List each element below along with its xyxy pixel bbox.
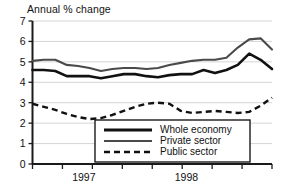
x-tick-label-year: 1998 xyxy=(175,171,199,183)
y-tick-label: 7 xyxy=(20,15,26,27)
y-tick-label: 0 xyxy=(20,158,26,170)
legend-label-private-sector: Private sector xyxy=(160,135,222,146)
y-tick-label: 5 xyxy=(20,56,26,68)
legend-label-whole-economy: Whole economy xyxy=(160,124,232,135)
x-tick-label-year: 1997 xyxy=(72,171,96,183)
x-axis-tick-labels: 19971998 xyxy=(72,171,198,183)
y-tick-label: 6 xyxy=(20,35,26,47)
series-line-public-sector xyxy=(33,98,273,119)
y-tick-label: 1 xyxy=(20,137,26,149)
data-series-group xyxy=(33,38,273,119)
y-tick-label: 2 xyxy=(20,117,26,129)
chart-container: Annual % change 01234567 19971998 Whole … xyxy=(0,0,283,189)
y-tick-label: 4 xyxy=(20,76,26,88)
chart-legend: Whole economy Private sector Public sect… xyxy=(95,120,250,162)
y-axis-tick-labels: 01234567 xyxy=(20,15,26,170)
line-chart-plot: 01234567 19971998 Whole economy Private … xyxy=(0,0,283,189)
legend-label-public-sector: Public sector xyxy=(160,146,218,157)
y-tick-label: 3 xyxy=(20,97,26,109)
